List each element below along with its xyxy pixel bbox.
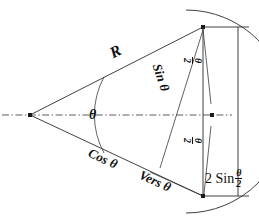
arc-midpoint-dot [210,113,214,117]
half-angle-fraction-lower: θ 2 [182,137,203,144]
chord-numerator: θ [235,168,242,178]
label-chord-prefix: 2 Sin [205,172,234,186]
vertex-point-dot [28,113,32,117]
half-angle-leader-upper [203,29,211,104]
label-chord-length: 2 Sin θ 2 [205,168,242,189]
label-angle-theta: θ [89,108,96,122]
chord-fraction: θ 2 [235,168,242,189]
chord-denominator: 2 [235,178,242,189]
bottom-point-dot [201,194,205,198]
sine-leader [160,30,203,168]
half-angle-fraction-upper: θ 2 [182,57,203,64]
half-angle-lower-numerator: θ [193,137,203,144]
label-half-angle-upper: θ 2 [182,57,203,64]
label-half-angle-lower: θ 2 [182,137,203,144]
half-angle-upper-numerator: θ [193,57,203,64]
top-point-dot [201,25,205,29]
radius-line-upper [30,27,203,115]
half-angle-lower-denominator: 2 [182,137,193,144]
trigonometry-diagram: R Sin θ Cos θ Vers θ θ θ 2 θ 2 2 Sin θ 2 [0,0,259,222]
label-angle-theta-text: θ [89,107,96,122]
half-angle-upper-denominator: 2 [182,57,193,64]
